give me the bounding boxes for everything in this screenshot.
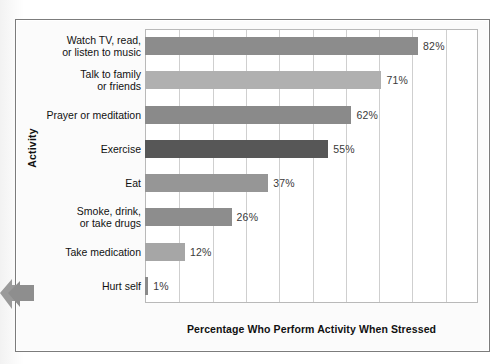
category-label-line: Watch TV, read, [67,34,141,46]
bar-value-label: 82% [423,40,445,52]
category-label-line: Smoke, drink, [77,205,141,217]
bar-row: 62% [145,98,478,132]
y-axis-title: Activity [26,118,38,178]
category-label-line: Talk to family [80,68,141,80]
bar-value-label: 1% [153,280,169,292]
bar-row: 26% [145,200,478,234]
category-label-line: Take medication [65,246,141,258]
bar-value-label: 26% [237,211,259,223]
bar[interactable] [145,37,418,55]
bar-row: 1% [145,269,478,303]
category-label-line: or listen to music [62,46,141,58]
category-label: Watch TV, read,or listen to music [32,29,141,63]
bar[interactable] [145,71,381,89]
bar-row: 37% [145,166,478,200]
category-axis-labels: Watch TV, read,or listen to musicTalk to… [32,29,141,303]
bars-layer: 82%71%62%55%37%26%12%1% [145,29,478,303]
category-label-line: or take drugs [80,217,141,229]
bar-value-label: 12% [190,246,212,258]
bar-value-label: 37% [273,177,295,189]
bar[interactable] [145,140,328,158]
category-label-line: or friends [97,80,141,92]
category-label-line: Eat [125,177,141,189]
bar-row: 82% [145,29,478,63]
bar-value-label: 71% [386,74,408,86]
category-label-line: Prayer or meditation [46,109,141,121]
figure-panel: 82%71%62%55%37%26%12%1% Watch TV, read,o… [15,19,490,352]
bar[interactable] [145,208,232,226]
bar-row: 71% [145,63,478,97]
bar-row: 12% [145,235,478,269]
bar[interactable] [145,174,268,192]
bar[interactable] [145,243,185,261]
category-label: Take medication [32,235,141,269]
category-label: Talk to familyor friends [32,63,141,97]
bar[interactable] [145,106,351,124]
category-label: Smoke, drink,or take drugs [32,200,141,234]
bar-row: 55% [145,132,478,166]
bar-chart: 82%71%62%55%37%26%12%1% Watch TV, read,o… [16,20,491,353]
bar[interactable] [145,277,148,295]
category-label-line: Exercise [101,143,141,155]
bar-value-label: 62% [356,109,378,121]
category-label: Prayer or meditation [32,98,141,132]
category-label: Eat [32,166,141,200]
category-label: Hurt self [32,269,141,303]
x-axis-title: Percentage Who Perform Activity When Str… [145,323,478,335]
category-label: Exercise [32,132,141,166]
category-label-line: Hurt self [102,280,141,292]
bar-value-label: 55% [333,143,355,155]
